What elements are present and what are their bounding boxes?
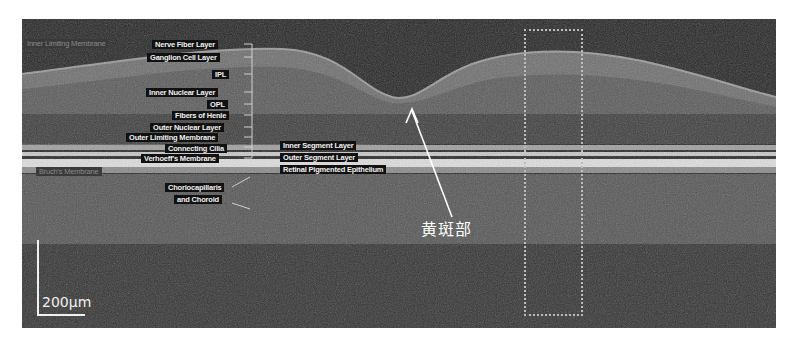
label-ipl: IPL (212, 70, 229, 79)
label-inner-limiting-membrane: Inner Limiting Membrane (24, 39, 108, 48)
label-outer-nuclear-layer: Outer Nuclear Layer (150, 123, 224, 132)
label-fibers-of-henle: Fibers of Henle (172, 111, 229, 120)
label-connecting-cilia: Connecting Cilia (165, 144, 227, 153)
label-retinal-pigmented-epithelium: Retinal Pigmented Epithelium (280, 165, 386, 174)
macula-callout: 黄斑部 (421, 216, 472, 240)
scale-bar-vertical (37, 240, 39, 316)
label-outer-segment-layer: Outer Segment Layer (280, 153, 358, 162)
label-bruchs-membrane: Bruch's Membrane (36, 167, 102, 176)
label-outer-limiting-membrane: Outer Limiting Membrane (126, 133, 218, 142)
scale-bar-horizontal (37, 314, 85, 316)
retina-layers-graphic (22, 19, 776, 328)
label-verhoeffs-membrane: Verhoeff's Membrane (141, 154, 219, 163)
region-of-interest-box (524, 29, 583, 316)
label-inner-nuclear-layer: Inner Nuclear Layer (146, 88, 218, 97)
oct-image: Inner Limiting Membrane Nerve Fiber Laye… (22, 19, 776, 328)
label-and-choroid: and Choroid (174, 195, 222, 204)
label-ganglion-cell-layer: Ganglion Cell Layer (147, 53, 220, 62)
scale-bar-label: 200μm (42, 294, 91, 310)
label-choriocapillaris: Choriocapillaris (165, 183, 224, 192)
label-opl: OPL (207, 100, 228, 109)
label-inner-segment-layer: Inner Segment Layer (280, 141, 356, 150)
label-nerve-fiber-layer: Nerve Fiber Layer (152, 40, 218, 49)
